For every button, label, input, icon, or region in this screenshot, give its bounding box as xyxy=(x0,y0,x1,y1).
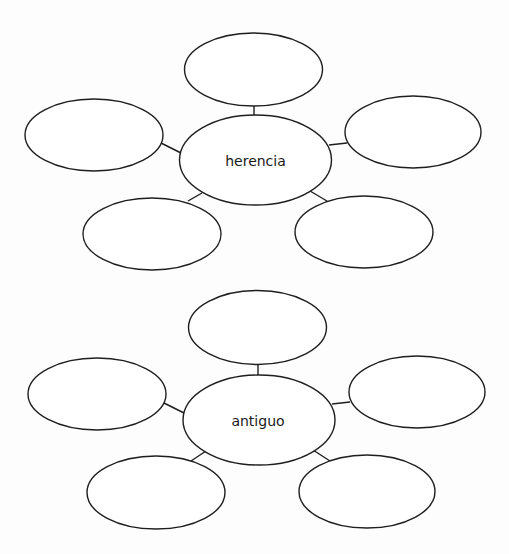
word-web-herencia: herencia xyxy=(25,33,481,270)
outer-node-left[interactable] xyxy=(25,99,163,171)
connector-right xyxy=(332,402,350,404)
connector-bottom-left xyxy=(191,451,206,461)
center-label: antiguo xyxy=(231,413,284,429)
outer-node-left[interactable] xyxy=(28,358,166,430)
outer-node-right[interactable] xyxy=(349,356,485,428)
connector-left xyxy=(164,403,184,413)
connector-bottom-right xyxy=(310,191,327,201)
outer-node-top[interactable] xyxy=(185,33,323,106)
outer-node-bottom-right[interactable] xyxy=(299,455,435,528)
word-web-worksheet: herencia antiguo xyxy=(0,0,509,554)
outer-node-bottom-left[interactable] xyxy=(83,198,221,270)
outer-node-top[interactable] xyxy=(189,291,327,365)
outer-node-right[interactable] xyxy=(345,96,481,168)
connector-left xyxy=(161,143,181,153)
outer-node-bottom-right[interactable] xyxy=(295,196,433,268)
connector-bottom-left xyxy=(188,193,202,201)
connector-bottom-right xyxy=(313,450,330,461)
connector-right xyxy=(329,143,347,145)
center-label: herencia xyxy=(225,153,286,169)
outer-node-bottom-left[interactable] xyxy=(87,456,225,529)
word-web-antiguo: antiguo xyxy=(28,291,485,530)
